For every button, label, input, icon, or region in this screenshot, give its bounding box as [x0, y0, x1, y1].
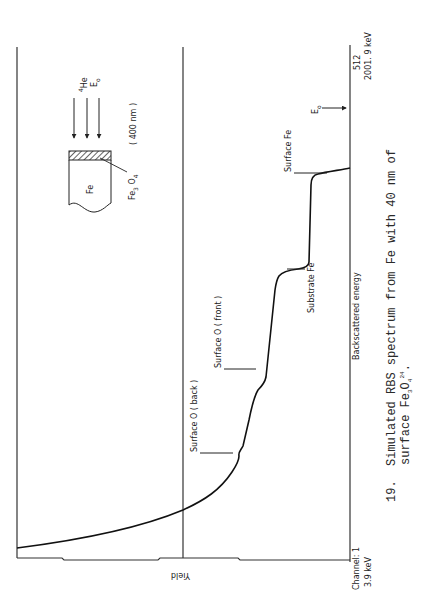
x-axis-end-energy: 2001. 9 keV: [364, 32, 373, 80]
surface-fe-label: Surface Fe: [284, 130, 293, 172]
energy-label: Eo: [90, 78, 101, 87]
x-axis-title: Backscattered energy: [352, 272, 361, 360]
yield-axis: [17, 558, 350, 560]
sample-inset: [69, 98, 127, 212]
e0-label: Eo: [311, 105, 322, 114]
x-axis-start-energy: 3.9 keV: [364, 557, 373, 587]
oxide-label: Fe3 O4: [128, 174, 139, 200]
beam-label: 4He: [77, 77, 89, 92]
layer-leader: [100, 158, 127, 172]
x-axis-end-channel: 512: [353, 55, 362, 70]
figure-caption-line1: 19. Simulated RBS spectrum from Fe with …: [385, 149, 399, 502]
oxide-layer: [69, 151, 111, 160]
y-axis-title: Yield: [171, 571, 190, 580]
layer-thickness-label: ( 400 nm ): [129, 103, 138, 145]
x-axis-start-channel: Channel: 1: [352, 547, 361, 590]
surface-o-front-label: Surface O ( front ): [214, 296, 223, 368]
surface-o-back-label: Surface O ( back ): [190, 380, 199, 452]
figure-caption-line2: surface Fe3O424.: [399, 364, 414, 465]
rbs-spectrum-figure: [0, 0, 447, 608]
substrate-label: Fe: [86, 185, 95, 194]
substrate-fe-label: Substrate Fe: [307, 263, 316, 313]
